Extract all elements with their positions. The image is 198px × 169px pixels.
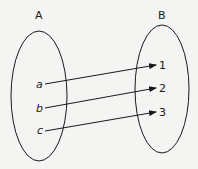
arrow-c-to-3 bbox=[45, 112, 156, 131]
arrow-a-to-1 bbox=[45, 65, 156, 84]
set-a-ellipse bbox=[11, 31, 67, 161]
set-b-label: B bbox=[158, 9, 166, 22]
element-2: 2 bbox=[159, 82, 166, 95]
element-3: 3 bbox=[159, 106, 166, 119]
element-a: a bbox=[36, 78, 43, 91]
set-a-label: A bbox=[35, 9, 43, 22]
element-1: 1 bbox=[159, 59, 166, 72]
element-c: c bbox=[37, 124, 43, 137]
arrow-b-to-2 bbox=[45, 88, 156, 108]
element-b: b bbox=[36, 102, 43, 115]
mapping-diagram: A B a b c 1 2 3 bbox=[0, 0, 198, 169]
